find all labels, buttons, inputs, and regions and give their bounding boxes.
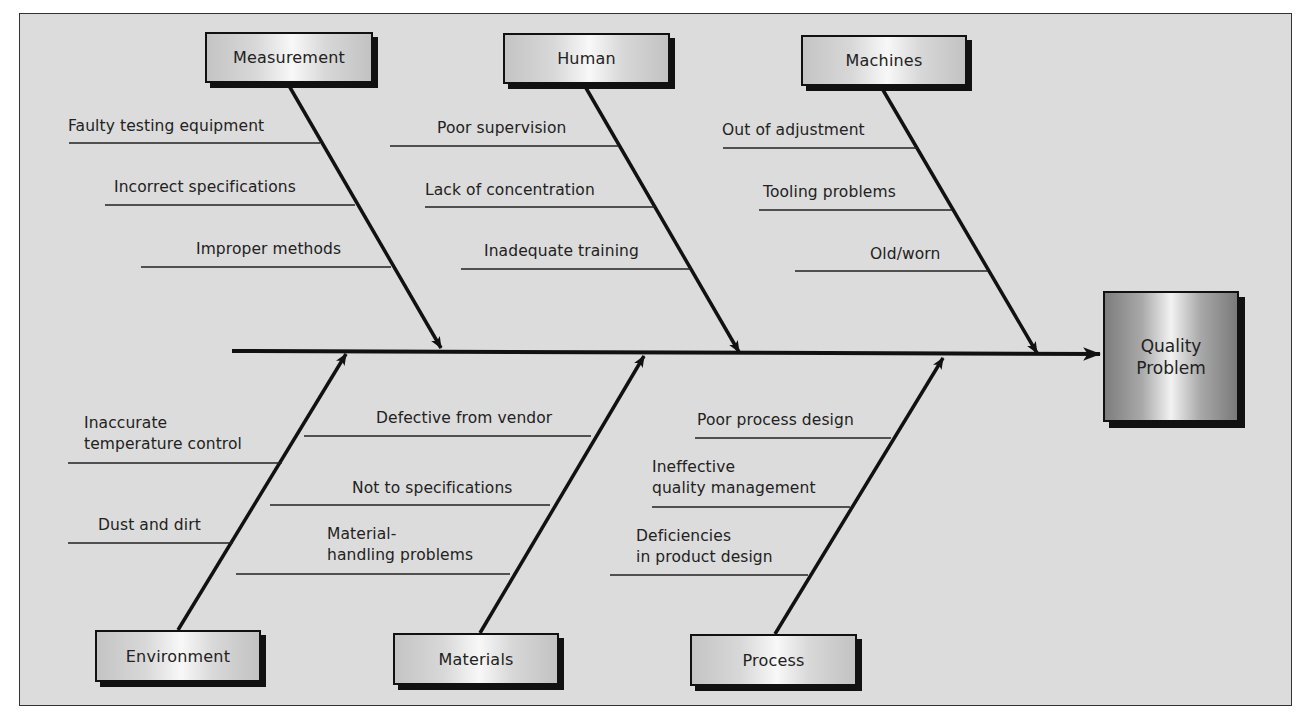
cause-lack-of-concentration: Lack of concentration [425,180,595,201]
cause-line: Deficiencies [636,526,773,547]
cause-poor-supervision: Poor supervision [437,118,566,139]
cause-not-to-specifications: Not to specifications [352,478,513,499]
cause-deficiencies-in-product-design: Deficiencies in product design [636,526,773,568]
ribs-machines [723,148,988,271]
category-machines: Machines [801,35,967,86]
category-process: Process [690,634,857,686]
bone-environment [178,354,346,630]
cause-inaccurate-temperature-control: Inaccurate temperature control [84,413,242,455]
cause-out-of-adjustment: Out of adjustment [722,120,865,141]
effect-label-line2: Problem [1136,357,1206,379]
cause-improper-methods: Improper methods [196,239,341,260]
effect-quality-problem: Quality Problem [1103,291,1239,422]
cause-line: Ineffective [652,457,816,478]
bone-human [586,88,739,352]
category-environment: Environment [95,630,261,682]
cause-dust-and-dirt: Dust and dirt [98,515,201,536]
bone-machines [883,90,1037,353]
bone-measurement [288,84,441,348]
effect-label-line1: Quality [1141,335,1202,357]
cause-faulty-testing-equipment: Faulty testing equipment [68,116,264,137]
spine-arrow [232,351,1100,354]
cause-incorrect-specifications: Incorrect specifications [114,177,296,198]
cause-line: in product design [636,547,773,568]
cause-line: handling problems [327,545,473,566]
cause-tooling-problems: Tooling problems [763,182,896,203]
cause-defective-from-vendor: Defective from vendor [376,408,552,429]
category-human: Human [503,33,670,84]
cause-line: Inaccurate [84,413,242,434]
cause-line: temperature control [84,434,242,455]
cause-inadequate-training: Inadequate training [484,241,639,262]
category-materials: Materials [393,633,559,685]
cause-line: Material- [327,524,473,545]
category-measurement: Measurement [205,32,373,83]
cause-poor-process-design: Poor process design [697,410,854,431]
cause-line: quality management [652,478,816,499]
cause-ineffective-quality-management: Ineffective quality management [652,457,816,499]
cause-material-handling-problems: Material- handling problems [327,524,473,566]
cause-old-worn: Old/worn [870,244,940,265]
